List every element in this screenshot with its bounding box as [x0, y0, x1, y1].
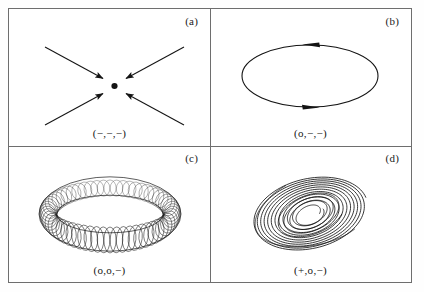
- panel-limit-cycle-attractor: (b) (o,−,−): [210, 9, 411, 146]
- fixed-point-dot: [111, 83, 117, 89]
- panel-caption-b: (o,−,−): [210, 127, 411, 139]
- chaotic-spiral-path: [254, 177, 366, 250]
- figure-root: (a) (−,−,−) (b) (o,−,−): [0, 0, 424, 292]
- panel-caption-c: (o,o,−): [9, 264, 210, 276]
- panel-letter-c: (c): [185, 152, 198, 164]
- panel-torus-attractor: (c) (o,o,−): [9, 146, 210, 283]
- panel-caption-a: (−,−,−): [9, 127, 210, 139]
- orbit-arrowhead-bottom: [302, 105, 320, 110]
- panel-letter-a: (a): [185, 15, 198, 27]
- figure-frame: (a) (−,−,−) (b) (o,−,−): [8, 8, 412, 283]
- panel-letter-b: (b): [386, 15, 399, 27]
- chaotic-trajectory: [254, 177, 366, 250]
- limit-cycle-orbit: [242, 45, 378, 107]
- strange-attractor-diagram: [210, 146, 411, 283]
- torus-diagram: [9, 146, 210, 283]
- panel-letter-d: (d): [386, 152, 399, 164]
- limit-cycle-diagram: [210, 9, 411, 146]
- orbit-arrowhead-top: [302, 42, 320, 47]
- panel-fixed-point-attractor: (a) (−,−,−): [9, 9, 210, 146]
- panel-caption-d: (+,o,−): [210, 264, 411, 276]
- torus-mesh: [37, 177, 183, 253]
- panel-strange-attractor: (d) (+,o,−): [210, 146, 411, 283]
- fixed-point-diagram: [9, 9, 210, 146]
